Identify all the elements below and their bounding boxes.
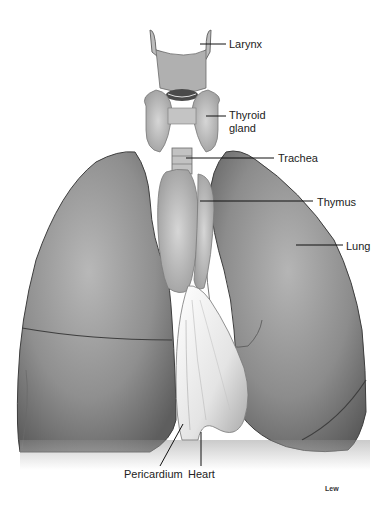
left-lung	[17, 152, 176, 452]
label-thymus: Thymus	[317, 196, 356, 208]
label-thyroid-gland: gland	[229, 122, 256, 134]
label-larynx: Larynx	[229, 38, 262, 50]
artist-credit: Lew	[325, 485, 339, 492]
anatomy-illustration: Larynx Thyroid gland Trachea Thymus Lung…	[0, 0, 390, 508]
label-trachea: Trachea	[278, 152, 318, 164]
label-heart: Heart	[188, 468, 215, 480]
thoracic-organs-drawing	[0, 0, 390, 508]
diaphragm-fringe	[20, 440, 370, 470]
thymus	[158, 169, 214, 292]
label-lung: Lung	[346, 240, 370, 252]
label-thyroid: Thyroid	[229, 109, 266, 121]
label-pericardium: Pericardium	[124, 468, 183, 480]
